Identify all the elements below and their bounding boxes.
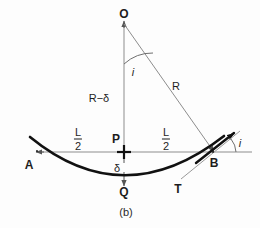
label-point-A: A	[25, 159, 34, 171]
label-point-O-top: O	[119, 8, 128, 20]
label-point-T: T	[174, 183, 181, 195]
point-B-marker	[212, 151, 214, 153]
geometry-diagram	[0, 0, 260, 228]
label-offset-delta: δ	[114, 163, 120, 174]
label-point-P: P	[112, 133, 120, 145]
label-half-chord-right: L 2	[162, 127, 170, 152]
angle-arc-at-B	[231, 139, 236, 152]
label-point-B: B	[210, 157, 219, 169]
curve-arc-AQB	[30, 136, 224, 175]
label-radius-R: R	[172, 81, 180, 92]
half-chord-right-denominator: 2	[162, 140, 170, 152]
tangent-construction-line	[181, 131, 240, 179]
point-P-cross-marker	[117, 145, 131, 159]
half-chord-left-denominator: 2	[74, 140, 82, 152]
point-A-marker	[36, 150, 38, 152]
label-angle-i-center: i	[132, 67, 134, 78]
figure-container: O i R−δ R L 2 L 2 P A B δ Q T i (b)	[0, 0, 260, 228]
label-half-chord-left: L 2	[74, 127, 82, 152]
half-chord-right-numerator: L	[162, 127, 170, 140]
label-rise-expression: R−δ	[89, 93, 110, 104]
figure-caption: (b)	[119, 206, 132, 218]
half-chord-left-numerator: L	[74, 127, 82, 140]
label-angle-i-tangent: i	[239, 138, 241, 149]
label-point-Q: Q	[119, 186, 128, 198]
